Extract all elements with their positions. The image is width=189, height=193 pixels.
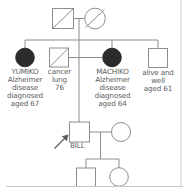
label-brother: alive and well aged 61 — [135, 69, 181, 93]
label-machiko: MACHIKO Alzheimer disease diagnosed aged… — [84, 68, 141, 108]
symbol-gen1-mother[interactable] — [85, 8, 106, 29]
symbol-gen1-father[interactable] — [53, 9, 74, 29]
pedigree-chart: YUMIKO Alzheimer disease diagnosed aged … — [0, 0, 189, 193]
symbol-cancer-spouse[interactable] — [50, 48, 69, 67]
symbol-child-son[interactable] — [77, 168, 96, 187]
symbol-bill[interactable] — [70, 122, 90, 142]
proband-arrow-icon — [55, 135, 69, 149]
symbol-bill-partner[interactable] — [112, 123, 131, 142]
symbol-child-daughter[interactable] — [110, 168, 129, 187]
symbol-machiko[interactable] — [103, 48, 122, 67]
symbol-yumiko[interactable] — [16, 48, 35, 67]
symbol-brother[interactable] — [149, 49, 168, 68]
label-cancer-spouse: cancer lung 76 — [44, 68, 75, 92]
label-bill: BILL — [70, 142, 85, 150]
label-yumiko: YUMIKO Alzheimer disease diagnosed aged … — [0, 68, 50, 108]
